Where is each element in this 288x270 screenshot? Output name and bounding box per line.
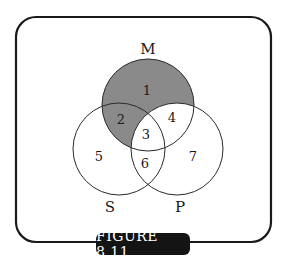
- region-label-6: 6: [141, 156, 149, 171]
- region-label-7: 7: [189, 149, 197, 164]
- region-label-2: 2: [117, 112, 125, 127]
- venn-diagram-figure: M S P 1 2 3 4 5 6 7 FIGURE 8.11: [0, 0, 288, 270]
- figure-caption-badge: FIGURE 8.11: [96, 233, 190, 255]
- set-label-s: S: [105, 198, 115, 216]
- region-label-3: 3: [142, 127, 150, 142]
- set-label-m: M: [140, 40, 155, 58]
- figure-caption-text: FIGURE 8.11: [96, 228, 190, 260]
- set-label-p: P: [175, 198, 185, 216]
- region-label-1: 1: [143, 83, 151, 98]
- region-label-5: 5: [95, 149, 103, 164]
- region-label-4: 4: [168, 110, 176, 125]
